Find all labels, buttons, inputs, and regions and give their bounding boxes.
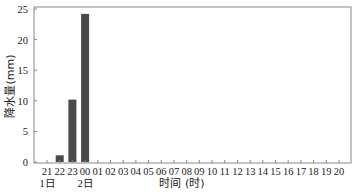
x-tick-label: 11 <box>220 166 230 177</box>
x-tick-label: 07 <box>169 166 180 177</box>
x-tick-label: 20 <box>334 166 345 177</box>
precipitation-bar-chart: 0510152025 21222300010203040506070809101… <box>0 0 352 192</box>
x-tick-label: 14 <box>258 166 269 177</box>
x-tick-label: 16 <box>283 166 294 177</box>
x-tick-label: 03 <box>118 166 129 177</box>
x-tick-label: 04 <box>131 166 142 177</box>
y-tick-label: 25 <box>18 4 29 15</box>
x-tick-label: 15 <box>270 166 281 177</box>
x-tick-label: 05 <box>143 166 154 177</box>
bar-23 <box>68 100 76 162</box>
x-tick-label: 18 <box>308 166 319 177</box>
x-tick-label: 06 <box>156 166 167 177</box>
x-axis-title: 时间 (时) <box>159 177 204 190</box>
x-tick-label: 13 <box>245 166 256 177</box>
y-tick-label: 15 <box>18 65 29 76</box>
y-tick-label: 5 <box>23 126 28 137</box>
y-tick-label: 0 <box>23 157 28 168</box>
plot-area <box>34 7 351 163</box>
day-label: 2日 <box>77 178 92 189</box>
x-tick-label: 22 <box>54 166 65 177</box>
x-tick-label: 00 <box>80 166 91 177</box>
y-tick-label: 10 <box>18 96 29 107</box>
x-tick-label: 01 <box>93 166 104 177</box>
x-tick-label: 17 <box>296 166 307 177</box>
x-tick-label: 12 <box>232 166 243 177</box>
x-tick-label: 02 <box>105 166 116 177</box>
y-tick-label: 20 <box>18 35 29 46</box>
bar-00 <box>81 14 89 162</box>
x-tick-label: 19 <box>321 166 332 177</box>
y-axis-title: 降水量(mm) <box>3 54 17 117</box>
x-tick-label: 21 <box>42 166 53 177</box>
day-label: 1日 <box>39 178 54 189</box>
x-tick-label: 23 <box>67 166 78 177</box>
x-tick-label: 09 <box>194 166 205 177</box>
x-tick-label: 10 <box>207 166 218 177</box>
x-tick-label: 08 <box>181 166 192 177</box>
